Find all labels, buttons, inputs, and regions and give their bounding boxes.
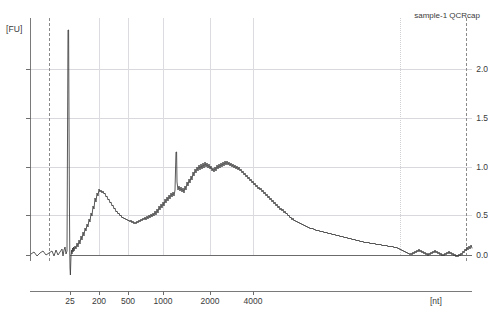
x-tick-mark-500 — [128, 291, 129, 295]
x-tick-label-4000: 4000 — [244, 296, 263, 306]
x-tick-label-200: 200 — [92, 296, 106, 306]
gridline-horizontal-0 — [30, 69, 472, 70]
y-tick-mark-0.0 — [26, 255, 31, 256]
y-tick-mark-1.5 — [26, 118, 31, 119]
gridline-vertical-2 — [163, 18, 164, 255]
x-tick-mark-1000 — [163, 291, 164, 295]
gridline-vertical-3 — [210, 18, 211, 255]
lower-marker-line — [49, 18, 50, 261]
y-tick-mark-0.5 — [26, 215, 31, 216]
gridline-vertical-0 — [99, 18, 100, 255]
y-tick-mark-2.0 — [26, 69, 31, 70]
gridline-vertical-4 — [253, 18, 254, 255]
baseline-zero-line — [70, 255, 472, 256]
y-axis-line — [30, 18, 31, 261]
electropherogram-chart: sample-1 QCRcap [FU] [nt] 0.00.51.01.52.… — [0, 0, 488, 320]
gridline-horizontal-1 — [30, 118, 472, 119]
gridline-horizontal-2 — [30, 167, 472, 168]
x-tick-label-1000: 1000 — [154, 296, 173, 306]
x-tick-mark-200 — [99, 291, 100, 295]
x-tick-label-500: 500 — [121, 296, 135, 306]
x-tick-label-2000: 2000 — [201, 296, 220, 306]
x-axis-line — [30, 291, 472, 292]
x-axis-unit-label: [nt] — [430, 296, 442, 306]
chart-title: sample-1 QCRcap — [414, 11, 480, 20]
x-tick-mark-25 — [70, 291, 71, 295]
y-axis-unit-label: [FU] — [6, 24, 22, 34]
sample-trace-line — [31, 30, 472, 275]
x-tick-mark-4000 — [253, 291, 254, 295]
x-tick-label-25: 25 — [65, 296, 74, 306]
gridline-horizontal-3 — [30, 215, 472, 216]
gridline-vertical-1 — [128, 18, 129, 255]
gridline-vertical-dotted-0 — [400, 18, 401, 255]
y-tick-mark-1.0 — [26, 167, 31, 168]
upper-marker-line — [466, 18, 467, 261]
x-tick-mark-2000 — [210, 291, 211, 295]
trace-svg — [0, 0, 488, 320]
